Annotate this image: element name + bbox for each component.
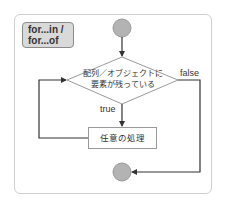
condition-line-2: 要素が残っている xyxy=(72,79,173,90)
process-node: 任意の処理 xyxy=(88,127,157,149)
false-label: false xyxy=(180,68,199,78)
true-label: true xyxy=(100,104,116,114)
end-node xyxy=(113,163,131,181)
condition-line-1: 配列／オブジェクトに xyxy=(72,68,173,79)
start-node xyxy=(113,19,131,37)
condition-text: 配列／オブジェクトに 要素が残っている xyxy=(72,68,173,90)
